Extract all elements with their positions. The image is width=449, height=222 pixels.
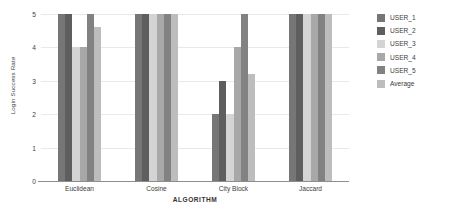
- x-axis-tick-label: Euclidean: [41, 185, 118, 192]
- bar[interactable]: [219, 81, 226, 181]
- bar[interactable]: [87, 14, 94, 181]
- bar[interactable]: [94, 27, 101, 181]
- bar[interactable]: [325, 14, 332, 181]
- legend-label: Average: [390, 80, 414, 87]
- bar-group: City Block: [195, 14, 272, 181]
- legend-label: USER_5: [390, 67, 416, 74]
- bar[interactable]: [303, 14, 310, 181]
- bar-group: Euclidean: [41, 14, 118, 181]
- bar[interactable]: [171, 14, 178, 181]
- legend-label: USER_1: [390, 14, 416, 21]
- legend-swatch: [377, 66, 385, 74]
- bar[interactable]: [149, 14, 156, 181]
- y-axis-tick-label: 0: [32, 178, 36, 185]
- y-axis-tick-label: 4: [32, 44, 36, 51]
- bar[interactable]: [241, 14, 248, 181]
- y-axis-label-text: Login Success Rate: [10, 56, 17, 114]
- legend-item[interactable]: USER_4: [377, 51, 447, 64]
- y-axis-tick-label: 3: [32, 77, 36, 84]
- bar[interactable]: [234, 47, 241, 181]
- legend-item[interactable]: Average: [377, 77, 447, 90]
- legend-swatch: [377, 53, 385, 61]
- legend-swatch: [377, 40, 385, 48]
- legend-item[interactable]: USER_1: [377, 11, 447, 24]
- bar[interactable]: [164, 14, 171, 181]
- bar[interactable]: [135, 14, 142, 181]
- legend-item[interactable]: USER_3: [377, 37, 447, 50]
- y-axis-tick-label: 2: [32, 111, 36, 118]
- plot-area: 012345 EuclideanCosineCity BlockJaccard: [41, 14, 349, 181]
- bar[interactable]: [212, 114, 219, 181]
- x-axis-line: [38, 181, 349, 182]
- legend-label: USER_2: [390, 27, 416, 34]
- y-axis-tick-label: 1: [32, 144, 36, 151]
- bar[interactable]: [318, 14, 325, 181]
- bar[interactable]: [58, 14, 65, 181]
- legend-item[interactable]: USER_5: [377, 64, 447, 77]
- legend-swatch: [377, 80, 385, 88]
- bar[interactable]: [157, 14, 164, 181]
- legend-swatch: [377, 27, 385, 35]
- x-axis-tick-label: City Block: [195, 185, 272, 192]
- bar[interactable]: [296, 14, 303, 181]
- x-axis-label: ALGORITHM: [41, 196, 349, 203]
- legend-item[interactable]: USER_2: [377, 24, 447, 37]
- x-axis-tick-label: Cosine: [118, 185, 195, 192]
- bar[interactable]: [72, 47, 79, 181]
- chart-legend: USER_1USER_2USER_3USER_4USER_5Average: [377, 11, 447, 90]
- bar[interactable]: [80, 47, 87, 181]
- bar[interactable]: [142, 14, 149, 181]
- chart-figure: Login Success Rate 012345 EuclideanCosin…: [0, 0, 449, 222]
- bar[interactable]: [311, 14, 318, 181]
- bar[interactable]: [226, 114, 233, 181]
- bar-group: Jaccard: [272, 14, 349, 181]
- x-axis-tick-label: Jaccard: [272, 185, 349, 192]
- bar[interactable]: [289, 14, 296, 181]
- y-axis-tick-label: 5: [32, 11, 36, 18]
- legend-swatch: [377, 14, 385, 22]
- bar[interactable]: [248, 74, 255, 181]
- legend-label: USER_4: [390, 54, 416, 61]
- y-axis-label: Login Success Rate: [6, 0, 20, 170]
- legend-label: USER_3: [390, 40, 416, 47]
- bar-groups: EuclideanCosineCity BlockJaccard: [41, 14, 349, 181]
- bar[interactable]: [65, 14, 72, 181]
- bar-group: Cosine: [118, 14, 195, 181]
